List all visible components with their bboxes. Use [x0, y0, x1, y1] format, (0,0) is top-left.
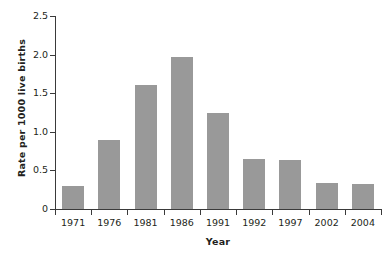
y-axis-tick-label: 2.5 [16, 11, 48, 21]
x-axis-tick [309, 210, 310, 215]
x-axis-line [55, 209, 382, 210]
bar [352, 184, 374, 209]
plot-area [55, 16, 381, 209]
bar-chart: Rate per 1000 live births 00.51.01.52.02… [0, 0, 391, 263]
bar [135, 85, 157, 209]
y-axis-tick-label: 0 [16, 204, 48, 214]
x-axis-tick-label: 1986 [164, 217, 200, 228]
x-axis-tick-label: 2002 [309, 217, 345, 228]
x-axis-tick [236, 210, 237, 215]
x-axis-tick-label: 2004 [345, 217, 381, 228]
bar [62, 186, 84, 209]
bar [98, 140, 120, 209]
x-axis-tick-label: 1997 [272, 217, 308, 228]
x-axis-tick-label: 1976 [91, 217, 127, 228]
y-axis-tick-label: 0.5 [16, 165, 48, 175]
x-axis-tick [200, 210, 201, 215]
bar [207, 113, 229, 210]
x-axis-tick [55, 210, 56, 215]
x-axis-tick [91, 210, 92, 215]
x-axis-tick [381, 210, 382, 215]
x-axis-tick-label: 1981 [127, 217, 163, 228]
bar [243, 159, 265, 209]
x-axis-tick-label: 1971 [55, 217, 91, 228]
y-axis-tick-label: 1.5 [16, 88, 48, 98]
y-axis-tick-label: 1.0 [16, 127, 48, 137]
x-axis-tick [345, 210, 346, 215]
bar [171, 57, 193, 209]
x-axis-title: Year [55, 236, 381, 247]
bar [279, 160, 301, 209]
x-axis-tick-label: 1991 [200, 217, 236, 228]
bar [316, 183, 338, 209]
x-axis-tick [164, 210, 165, 215]
x-axis-tick [127, 210, 128, 215]
y-axis-title: Rate per 1000 live births [14, 3, 30, 213]
x-axis-tick-label: 1992 [236, 217, 272, 228]
y-axis-tick-label: 2.0 [16, 50, 48, 60]
x-axis-tick [272, 210, 273, 215]
